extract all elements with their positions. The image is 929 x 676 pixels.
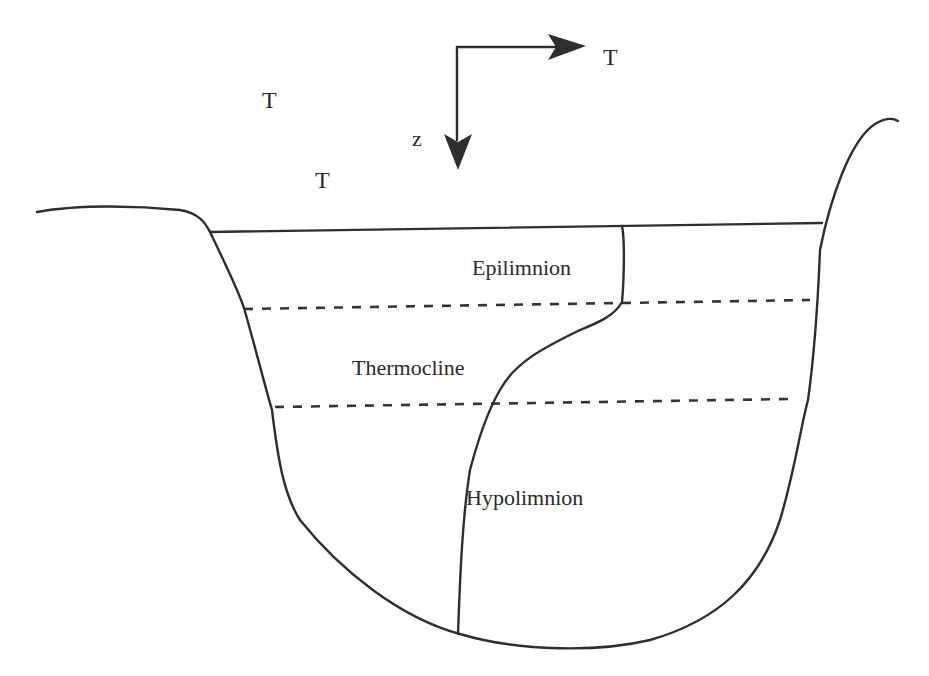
floating-label-t-1: T	[262, 87, 277, 113]
thermocline-hypolimnion-boundary	[275, 399, 790, 407]
axes-group: T z	[412, 34, 618, 170]
lake-stratification-diagram: T z T T Epilimnion Thermocline Hypolimni…	[0, 0, 929, 676]
lake-basin-outline	[37, 119, 898, 648]
layer-label-hypolimnion: Hypolimnion	[466, 485, 583, 510]
temperature-profile-curve	[458, 226, 624, 634]
floating-label-t-2: T	[315, 167, 330, 193]
epilimnion-thermocline-boundary	[244, 300, 810, 309]
water-surface-line	[210, 223, 822, 232]
depth-axis-label: z	[412, 126, 422, 151]
temperature-axis-label: T	[603, 44, 618, 70]
layer-label-thermocline: Thermocline	[352, 355, 464, 380]
layer-label-epilimnion: Epilimnion	[472, 255, 571, 280]
